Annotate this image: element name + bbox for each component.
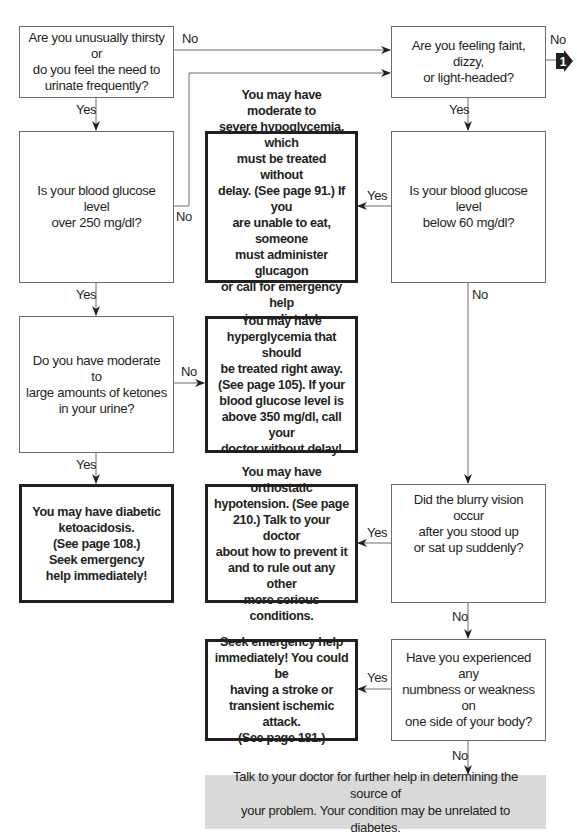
svg-text:1: 1 bbox=[560, 55, 567, 69]
result-stroke: Seek emergency help immediately! You cou… bbox=[205, 639, 358, 741]
edge-label-thirsty-no: No bbox=[182, 31, 198, 46]
edge-label-blurry-no: No bbox=[452, 609, 468, 624]
result-stroke-text: Seek emergency help immediately! You cou… bbox=[214, 634, 349, 746]
question-numbness: Have you experienced any numbness or wea… bbox=[391, 639, 546, 741]
question-glucose-over-250-text: Is your blood glucose level over 250 mg/… bbox=[26, 183, 167, 231]
edge-label-glucose250-no: No bbox=[176, 209, 192, 224]
arrow-right-badge-icon: 1 bbox=[554, 50, 574, 72]
question-blurry: Did the blurry vision occur after you st… bbox=[391, 484, 546, 603]
result-hypoglycemia-text: You may have moderate to severe hypoglyc… bbox=[214, 87, 349, 327]
result-ketoacidosis-text: You may have diabetic ketoacidosis. (See… bbox=[32, 504, 161, 584]
question-blurry-text: Did the blurry vision occur after you st… bbox=[398, 492, 539, 556]
edge-label-numbness-yes: Yes bbox=[367, 670, 387, 685]
edge-label-ketones-no: No bbox=[181, 364, 197, 379]
result-hypoglycemia: You may have moderate to severe hypoglyc… bbox=[205, 131, 358, 283]
question-faint: Are you feeling faint, dizzy, or light-h… bbox=[391, 26, 546, 98]
result-hyperglycemia: You may have hyperglycemia that should b… bbox=[205, 316, 358, 453]
result-hyperglycemia-text: You may have hyperglycemia that should b… bbox=[214, 313, 349, 457]
question-ketones: Do you have moderate to large amounts of… bbox=[19, 316, 174, 453]
edge-label-ketones-yes: Yes bbox=[76, 457, 96, 472]
edge-label-below60-no: No bbox=[472, 287, 488, 302]
question-ketones-text: Do you have moderate to large amounts of… bbox=[26, 353, 167, 417]
result-orthostatic: You may have orthostatic hypotension. (S… bbox=[205, 484, 358, 603]
edge-label-faint-yes: Yes bbox=[449, 102, 469, 117]
edge-label-faint-no: No bbox=[550, 32, 566, 47]
question-glucose-over-250: Is your blood glucose level over 250 mg/… bbox=[19, 131, 174, 283]
result-ketoacidosis: You may have diabetic ketoacidosis. (See… bbox=[19, 484, 174, 603]
question-numbness-text: Have you experienced any numbness or wea… bbox=[398, 650, 539, 730]
edge-label-below60-yes: Yes bbox=[367, 188, 387, 203]
continuation-marker[interactable]: 1 bbox=[554, 50, 574, 72]
result-talk-to-doctor-text: Talk to your doctor for further help in … bbox=[215, 768, 536, 836]
question-faint-text: Are you feeling faint, dizzy, or light-h… bbox=[398, 38, 539, 86]
edge-label-numbness-no: No bbox=[452, 748, 468, 763]
question-thirsty: Are you unusually thirsty or do you feel… bbox=[19, 26, 174, 98]
edge-label-glucose250-yes: Yes bbox=[76, 287, 96, 302]
edge-label-blurry-yes: Yes bbox=[367, 525, 387, 540]
question-glucose-below-60-text: Is your blood glucose level below 60 mg/… bbox=[398, 183, 539, 231]
result-talk-to-doctor: Talk to your doctor for further help in … bbox=[205, 775, 546, 829]
question-thirsty-text: Are you unusually thirsty or do you feel… bbox=[26, 30, 167, 94]
edge-label-thirsty-yes: Yes bbox=[76, 102, 96, 117]
question-glucose-below-60: Is your blood glucose level below 60 mg/… bbox=[391, 131, 546, 283]
result-orthostatic-text: You may have orthostatic hypotension. (S… bbox=[214, 464, 349, 624]
